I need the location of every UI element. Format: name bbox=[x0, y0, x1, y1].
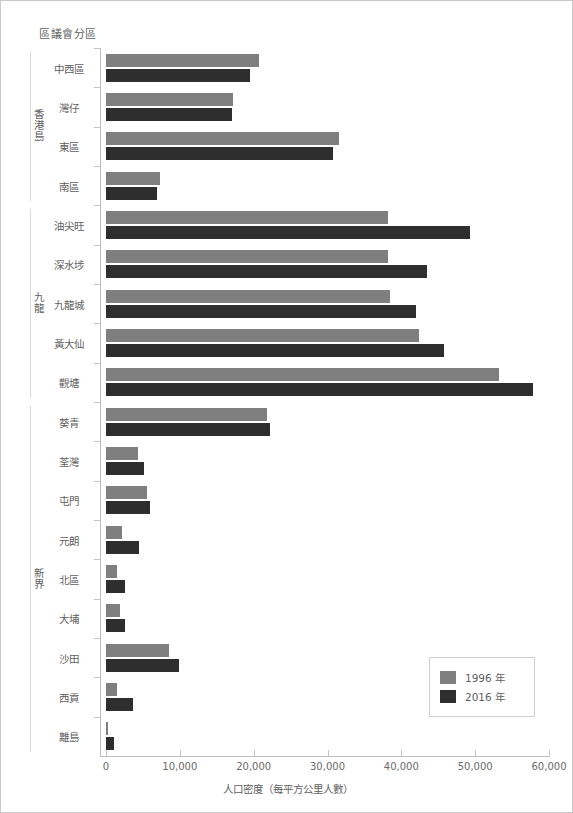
bar-2016 bbox=[106, 344, 444, 357]
bar-1996 bbox=[106, 290, 390, 303]
category-tick bbox=[94, 205, 100, 206]
bar-1996 bbox=[106, 54, 259, 67]
bar-2016 bbox=[106, 265, 427, 278]
bar-2016 bbox=[106, 226, 470, 239]
category-label: 葵青 bbox=[38, 415, 100, 430]
value-tick-label: 50,000 bbox=[458, 761, 493, 772]
bar-1996 bbox=[106, 447, 138, 460]
category-label: 荃灣 bbox=[38, 454, 100, 469]
value-tick bbox=[549, 750, 550, 756]
bar-2016 bbox=[106, 423, 270, 436]
chart-row: 北區 bbox=[1, 559, 573, 598]
value-tick bbox=[106, 750, 107, 756]
bar-1996 bbox=[106, 368, 499, 381]
category-label: 深水埗 bbox=[38, 257, 100, 272]
bar-1996 bbox=[106, 486, 147, 499]
chart-container: 區議會分區 香港島九龍新界 中西區灣仔東區南區油尖旺深水埗九龍城黃大仙觀塘葵青荃… bbox=[0, 0, 573, 813]
bar-2016 bbox=[106, 698, 133, 711]
bar-1996 bbox=[106, 211, 388, 224]
chart-row: 屯門 bbox=[1, 481, 573, 520]
bar-2016 bbox=[106, 69, 250, 82]
category-tick bbox=[94, 559, 100, 560]
category-label: 南區 bbox=[38, 179, 100, 194]
category-label: 大埔 bbox=[38, 611, 100, 626]
category-tick bbox=[94, 87, 100, 88]
category-tick bbox=[94, 48, 100, 49]
chart-row: 南區 bbox=[1, 166, 573, 205]
category-tick bbox=[94, 284, 100, 285]
chart-row: 深水埗 bbox=[1, 245, 573, 284]
bar-2016 bbox=[106, 659, 179, 672]
bar-1996 bbox=[106, 408, 267, 421]
bar-1996 bbox=[106, 604, 120, 617]
value-tick bbox=[180, 750, 181, 756]
value-axis-title: 人口密度（每平方公里人數） bbox=[1, 781, 573, 796]
bar-1996 bbox=[106, 329, 419, 342]
chart-row: 離島 bbox=[1, 717, 573, 756]
chart-row: 九龍城 bbox=[1, 284, 573, 323]
bar-2016 bbox=[106, 187, 157, 200]
bar-2016 bbox=[106, 462, 144, 475]
value-tick-label: 30,000 bbox=[310, 761, 345, 772]
category-tick bbox=[94, 402, 100, 403]
bar-2016 bbox=[106, 383, 533, 396]
bar-2016 bbox=[106, 541, 139, 554]
category-tick bbox=[94, 245, 100, 246]
category-label: 中西區 bbox=[38, 61, 100, 76]
bar-1996 bbox=[106, 172, 160, 185]
bar-1996 bbox=[106, 526, 122, 539]
chart-row: 元朗 bbox=[1, 520, 573, 559]
bar-1996 bbox=[106, 683, 117, 696]
chart-row: 荃灣 bbox=[1, 441, 573, 480]
category-tick bbox=[94, 717, 100, 718]
category-tick bbox=[94, 481, 100, 482]
category-label: 離島 bbox=[38, 729, 100, 744]
category-tick bbox=[94, 441, 100, 442]
chart-row: 東區 bbox=[1, 127, 573, 166]
value-tick-label: 40,000 bbox=[384, 761, 419, 772]
value-tick bbox=[401, 750, 402, 756]
category-tick bbox=[94, 520, 100, 521]
category-tick bbox=[94, 127, 100, 128]
category-label: 沙田 bbox=[38, 651, 100, 666]
chart-legend: 1996 年2016 年 bbox=[429, 657, 535, 717]
bar-1996 bbox=[106, 132, 339, 145]
category-label: 屯門 bbox=[38, 493, 100, 508]
bar-1996 bbox=[106, 250, 388, 263]
bar-2016 bbox=[106, 305, 416, 318]
category-label: 黃大仙 bbox=[38, 336, 100, 351]
category-label: 油尖旺 bbox=[38, 218, 100, 233]
legend-label: 1996 年 bbox=[465, 670, 505, 685]
category-label: 北區 bbox=[38, 572, 100, 587]
bar-1996 bbox=[106, 565, 117, 578]
category-tick bbox=[94, 638, 100, 639]
legend-item: 1996 年 bbox=[440, 670, 524, 685]
bar-2016 bbox=[106, 580, 125, 593]
category-tick bbox=[94, 677, 100, 678]
category-tick bbox=[94, 363, 100, 364]
chart-row: 觀塘 bbox=[1, 363, 573, 402]
chart-row: 灣仔 bbox=[1, 87, 573, 126]
category-tick bbox=[94, 323, 100, 324]
bar-2016 bbox=[106, 737, 114, 750]
bar-2016 bbox=[106, 147, 333, 160]
bar-2016 bbox=[106, 619, 125, 632]
value-tick-label: 10,000 bbox=[162, 761, 197, 772]
chart-row: 中西區 bbox=[1, 48, 573, 87]
legend-item: 2016 年 bbox=[440, 689, 524, 704]
category-label: 灣仔 bbox=[38, 100, 100, 115]
value-tick bbox=[254, 750, 255, 756]
category-label: 元朗 bbox=[38, 533, 100, 548]
category-label: 九龍城 bbox=[38, 297, 100, 312]
bar-1996 bbox=[106, 93, 233, 106]
value-tick bbox=[475, 750, 476, 756]
chart-row: 黃大仙 bbox=[1, 323, 573, 362]
category-label: 東區 bbox=[38, 139, 100, 154]
value-tick-label: 60,000 bbox=[532, 761, 567, 772]
category-label: 西貢 bbox=[38, 690, 100, 705]
legend-swatch bbox=[440, 690, 456, 703]
legend-label: 2016 年 bbox=[465, 689, 505, 704]
value-tick-label: 20,000 bbox=[236, 761, 271, 772]
value-tick-label: 0 bbox=[103, 761, 109, 772]
category-label: 觀塘 bbox=[38, 375, 100, 390]
